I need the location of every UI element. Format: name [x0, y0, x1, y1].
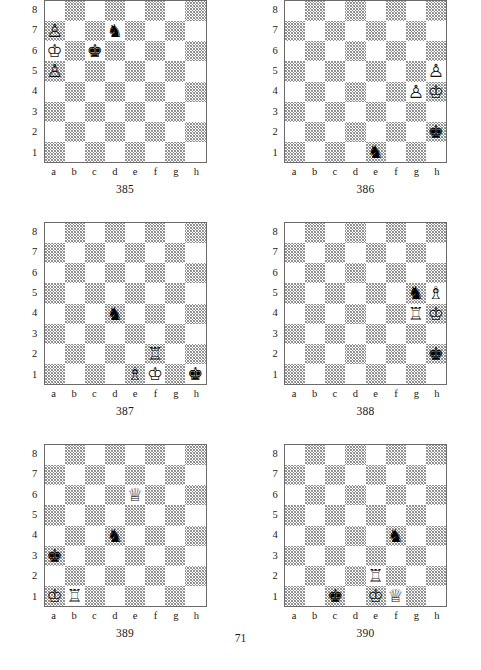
square-h5: [185, 61, 205, 81]
piece-white-pawn-g4: ♙: [406, 83, 426, 101]
file-label: h: [186, 388, 206, 401]
square-b3: [305, 102, 325, 122]
file-label: f: [145, 610, 165, 623]
square-h8: [185, 1, 205, 21]
square-d6: [345, 41, 365, 61]
square-a6: [285, 263, 305, 283]
square-d8: [105, 223, 125, 243]
square-h6: [426, 485, 446, 505]
file-label: c: [84, 166, 104, 179]
square-c2: [325, 344, 345, 364]
square-h1: [426, 586, 446, 606]
square-c5: [85, 61, 105, 81]
square-f3: [145, 546, 165, 566]
square-b8: [305, 1, 325, 21]
file-label: h: [186, 166, 206, 179]
square-b2: [305, 122, 325, 142]
square-g8: [165, 445, 185, 465]
rank-label: 2: [268, 122, 282, 142]
square-e4: [366, 82, 386, 102]
square-h8: [185, 445, 205, 465]
square-b1: [305, 142, 325, 162]
square-g7: [406, 465, 426, 485]
rank-label: 5: [268, 283, 282, 303]
rank-label: 7: [28, 464, 42, 484]
square-e3: [366, 102, 386, 122]
square-e3: [366, 546, 386, 566]
square-d3: [345, 324, 365, 344]
square-c1: [85, 142, 105, 162]
square-a7: [45, 243, 65, 263]
square-a8: [45, 1, 65, 21]
square-g2: [165, 344, 185, 364]
square-b7: [305, 243, 325, 263]
square-e5: [125, 505, 145, 525]
square-e7: [366, 465, 386, 485]
file-labels: abcdefgh: [284, 388, 447, 401]
square-b2: [65, 122, 85, 142]
square-h6: [426, 263, 446, 283]
rank-label: 4: [268, 82, 282, 102]
piece-white-pawn-h5: ♙: [426, 62, 446, 80]
square-e2: [125, 122, 145, 142]
square-g5: [165, 283, 185, 303]
square-a7: [285, 243, 305, 263]
square-b3: [305, 546, 325, 566]
file-label: a: [44, 388, 64, 401]
square-d3: [105, 546, 125, 566]
square-b8: [65, 1, 85, 21]
piece-white-king-h4: ♔: [426, 305, 446, 323]
square-b3: [305, 324, 325, 344]
rank-label: 8: [28, 0, 42, 20]
rank-labels: 87654321: [268, 444, 282, 607]
square-b1: [305, 364, 325, 384]
square-d8: [345, 445, 365, 465]
square-a5: ♙: [45, 61, 65, 81]
rank-label: 5: [268, 61, 282, 81]
square-e5: [366, 61, 386, 81]
square-a6: [45, 485, 65, 505]
square-e8: [366, 1, 386, 21]
square-h1: [185, 586, 205, 606]
square-f4: [386, 82, 406, 102]
square-e8: [366, 445, 386, 465]
square-e4: [366, 304, 386, 324]
square-b8: [65, 445, 85, 465]
file-labels: abcdefgh: [44, 388, 207, 401]
square-d5: [345, 505, 365, 525]
square-a5: [45, 505, 65, 525]
square-a1: [285, 364, 305, 384]
square-f7: [386, 243, 406, 263]
square-a2: [45, 344, 65, 364]
square-g5: [406, 505, 426, 525]
square-h2: ♚: [426, 122, 446, 142]
square-f2: [386, 122, 406, 142]
square-c6: [325, 263, 345, 283]
square-b7: [65, 243, 85, 263]
file-label: e: [366, 166, 386, 179]
square-b5: [65, 283, 85, 303]
square-a6: [45, 263, 65, 283]
square-d1: [345, 142, 365, 162]
square-d5: [105, 283, 125, 303]
square-d7: [345, 243, 365, 263]
square-c4: [85, 526, 105, 546]
square-g4: ♙: [406, 82, 426, 102]
rank-label: 5: [28, 61, 42, 81]
file-label: d: [105, 166, 125, 179]
square-e6: [366, 485, 386, 505]
square-g1: [406, 142, 426, 162]
square-e7: [125, 465, 145, 485]
file-labels: abcdefgh: [44, 166, 207, 179]
file-label: a: [284, 388, 304, 401]
square-c8: [325, 1, 345, 21]
square-a8: [285, 1, 305, 21]
diagram-cell: 87654321♞♖♗♔♚abcdefgh387: [0, 222, 240, 444]
square-g4: ♖: [406, 304, 426, 324]
square-f4: [145, 82, 165, 102]
square-g1: [165, 364, 185, 384]
file-label: b: [304, 610, 324, 623]
square-h7: [426, 465, 446, 485]
piece-black-king-h1: ♚: [185, 365, 205, 383]
piece-black-king-h2: ♚: [426, 123, 446, 141]
